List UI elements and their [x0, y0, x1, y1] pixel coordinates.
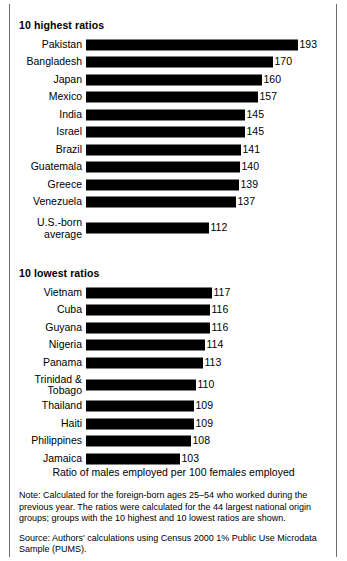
- bar-value-label: 112: [209, 222, 227, 234]
- bar-row-label: Thailand: [10, 401, 82, 413]
- footnotes: Note: Calculated for the foreign-born ag…: [19, 490, 333, 556]
- bar: [86, 92, 258, 103]
- bar-row: Jamaica103: [10, 450, 337, 468]
- bar-row-label: Brazil: [10, 144, 82, 156]
- bar-track: 116: [86, 319, 337, 337]
- bar-row-label: Panama: [10, 357, 82, 369]
- bar-row-label: Philippines: [10, 436, 82, 448]
- bar-row-label: Israel: [10, 127, 82, 139]
- bar: [86, 357, 203, 368]
- bar-row: Pakistan193: [10, 36, 337, 54]
- bar: [86, 453, 180, 464]
- bar-group-lowest-ratios: Vietnam117Cuba116Guyana116Nigeria114Pana…: [10, 284, 337, 468]
- bar-value-label: 193: [298, 39, 317, 51]
- section-title-lowest: 10 lowest ratios: [19, 267, 99, 279]
- bar: [86, 401, 194, 412]
- bar-value-label: 170: [273, 57, 292, 69]
- bar-row: Venezuela137: [10, 194, 337, 212]
- bar-row-label: Cuba: [10, 305, 82, 317]
- bar: [86, 127, 245, 138]
- bar-row-label: Venezuela: [10, 197, 82, 209]
- bar-track: 145: [86, 124, 337, 142]
- bar: [86, 322, 210, 333]
- footnote-note: Note: Calculated for the foreign-born ag…: [19, 490, 333, 525]
- bar-row: Guyana116: [10, 319, 337, 337]
- bar-row-label: Trinidad & Tobago: [10, 373, 82, 396]
- bar: [86, 305, 210, 316]
- bar-track: 140: [86, 159, 337, 177]
- bar-row-label: Pakistan: [10, 39, 82, 51]
- bar-value-label: 109: [194, 418, 213, 430]
- bar-row: Greece139: [10, 176, 337, 194]
- bar-value-label: 139: [239, 179, 258, 191]
- bar-track: 108: [86, 433, 337, 451]
- bar-row-label: Vietnam: [10, 287, 82, 299]
- bar: [86, 39, 298, 50]
- bar-track: 109: [86, 398, 337, 416]
- bar: [86, 340, 205, 351]
- bar-row: Panama113: [10, 354, 337, 372]
- bar-group-us-born-average: U.S.-born average112: [10, 215, 337, 241]
- bar-row-label: Mexico: [10, 92, 82, 104]
- bar: [86, 223, 209, 234]
- bar-value-label: 140: [240, 162, 259, 174]
- bar-row-label: U.S.-born average: [10, 217, 82, 240]
- bar-row: Trinidad & Tobago110: [10, 372, 337, 398]
- bar: [86, 379, 196, 390]
- bar: [86, 74, 262, 85]
- footnote-source: Source: Authors' calculations using Cens…: [19, 533, 333, 556]
- bar-row-label: Guatemala: [10, 162, 82, 174]
- bar: [86, 179, 239, 190]
- bar-value-label: 137: [236, 197, 255, 209]
- bar-value-label: 116: [210, 322, 228, 334]
- bar-track: 116: [86, 302, 337, 320]
- bar-track: 193: [86, 36, 337, 54]
- bar: [86, 287, 212, 298]
- bar-track: 110: [86, 372, 337, 398]
- bar: [86, 57, 273, 68]
- bar-value-label: 116: [210, 305, 228, 317]
- bar-row-label: Bangladesh: [10, 57, 82, 69]
- bar-value-label: 114: [205, 340, 223, 352]
- bar: [86, 418, 194, 429]
- bar-row: Guatemala140: [10, 159, 337, 177]
- bar-row-label: Greece: [10, 179, 82, 191]
- bar-track: 114: [86, 337, 337, 355]
- bar-group-highest-ratios: Pakistan193Bangladesh170Japan160Mexico15…: [10, 36, 337, 211]
- bar-track: 170: [86, 54, 337, 72]
- bar-row-label: Japan: [10, 74, 82, 86]
- bar-track: 137: [86, 194, 337, 212]
- bar-value-label: 113: [203, 357, 221, 369]
- bar-value-label: 145: [245, 127, 264, 139]
- bar-row: Haiti109: [10, 415, 337, 433]
- chart-content: 10 highest ratios Pakistan193Bangladesh1…: [10, 0, 337, 561]
- bar-track: 112: [86, 215, 337, 241]
- bar-value-label: 145: [245, 109, 264, 121]
- axis-caption: Ratio of males employed per 100 females …: [10, 466, 337, 478]
- bar-row: Mexico157: [10, 89, 337, 107]
- bar: [86, 162, 240, 173]
- section-title-highest: 10 highest ratios: [19, 19, 104, 31]
- bar-track: 109: [86, 415, 337, 433]
- bar-value-label: 141: [241, 144, 260, 156]
- bar-value-label: 157: [258, 92, 277, 104]
- bar-row: Vietnam117: [10, 284, 337, 302]
- bar-row: Cuba116: [10, 302, 337, 320]
- bar-row: Nigeria114: [10, 337, 337, 355]
- bar-value-label: 117: [212, 287, 230, 299]
- bar-row: India145: [10, 106, 337, 124]
- bar: [86, 144, 241, 155]
- bar-track: 157: [86, 89, 337, 107]
- bar: [86, 436, 191, 447]
- bar-value-label: 110: [196, 379, 214, 391]
- bar-row: Philippines108: [10, 433, 337, 451]
- bar-row: Bangladesh170: [10, 54, 337, 72]
- bar-track: 141: [86, 141, 337, 159]
- bar-row-label: Nigeria: [10, 340, 82, 352]
- bar-track: 145: [86, 106, 337, 124]
- bar: [86, 197, 236, 208]
- bar-row-label: Jamaica: [10, 453, 82, 465]
- bar-track: 139: [86, 176, 337, 194]
- bar-row: Japan160: [10, 71, 337, 89]
- bar-track: 160: [86, 71, 337, 89]
